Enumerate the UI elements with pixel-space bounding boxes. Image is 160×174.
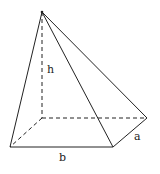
depth-label: a (134, 130, 141, 143)
right-base-edge (113, 118, 147, 147)
hidden-edges (10, 12, 147, 147)
width-label: b (59, 151, 66, 164)
visible-edges (10, 12, 147, 147)
left-base-edge (10, 118, 42, 147)
pyramid-svg: h a b (0, 0, 160, 174)
apex-point (41, 11, 44, 14)
lateral-edge-front-left (10, 12, 42, 147)
lateral-edge-back-right (42, 12, 147, 118)
height-label: h (47, 63, 54, 76)
pyramid-diagram: h a b (0, 0, 160, 174)
lateral-edge-front-right (42, 12, 113, 147)
